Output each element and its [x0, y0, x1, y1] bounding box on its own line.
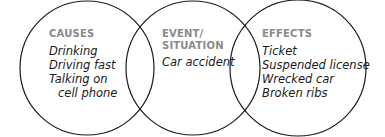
effect-item: Ticket [262, 44, 370, 58]
event-heading-line2: SITUATION [162, 40, 235, 52]
effect-item: Suspended license [262, 58, 370, 72]
causes-heading: CAUSES [49, 28, 117, 40]
effects-heading: EFFECTS [262, 28, 370, 40]
effect-item: Broken ribs [262, 86, 370, 100]
cause-item: Driving fast [49, 58, 117, 72]
cause-item: Talking on [49, 72, 117, 86]
cause-item: cell phone [49, 86, 117, 100]
cause-item: Drinking [49, 44, 117, 58]
effect-item: Wrecked car [262, 72, 370, 86]
effects-group: EFFECTS Ticket Suspended license Wrecked… [262, 28, 370, 100]
event-list: Car accident [162, 55, 235, 69]
effects-list: Ticket Suspended license Wrecked car Bro… [262, 44, 370, 100]
causes-list: Drinking Driving fast Talking on cell ph… [49, 44, 117, 100]
event-heading-line1: EVENT/ [162, 28, 235, 40]
causes-group: CAUSES Drinking Driving fast Talking on … [49, 28, 117, 100]
event-item: Car accident [162, 55, 235, 69]
event-group: EVENT/ SITUATION Car accident [162, 28, 235, 69]
